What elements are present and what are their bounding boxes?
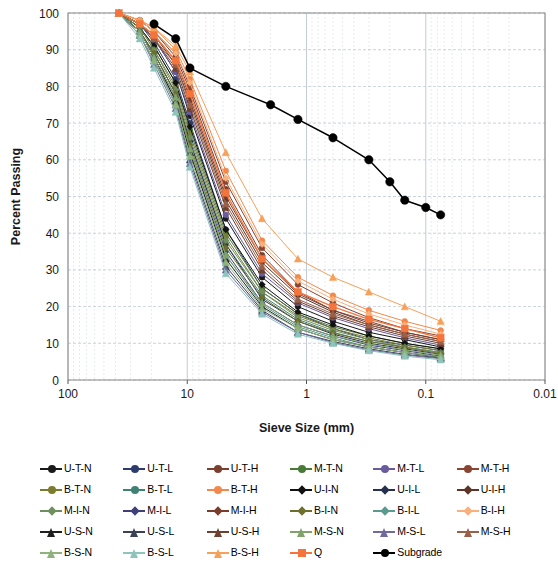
legend-item-u-t-l[interactable]: U-T-L xyxy=(123,463,206,475)
legend-item-u-i-l[interactable]: U-I-L xyxy=(373,484,456,496)
legend-label: B-T-H xyxy=(231,484,258,495)
x-tick-labels: 1001010.10.01 xyxy=(58,380,557,401)
legend-item-m-i-l[interactable]: M-I-L xyxy=(123,505,206,517)
legend-label: M-S-H xyxy=(481,526,511,537)
svg-text:20: 20 xyxy=(46,300,60,314)
legend-label: B-S-H xyxy=(231,547,259,558)
legend-label: U-S-N xyxy=(64,526,93,537)
legend-item-m-s-h[interactable]: M-S-H xyxy=(457,526,540,538)
y-tick-labels: 0102030405060708090100 xyxy=(39,7,59,388)
legend-label: B-S-N xyxy=(64,547,92,558)
legend-item-u-t-h[interactable]: U-T-H xyxy=(207,463,290,475)
legend-marker-icon xyxy=(457,463,479,475)
legend-marker-icon xyxy=(123,505,145,517)
legend-label: U-T-L xyxy=(147,463,173,474)
legend-label: M-S-N xyxy=(314,526,344,537)
legend-item-u-t-n[interactable]: U-T-N xyxy=(40,463,123,475)
legend-item-b-t-l[interactable]: B-T-L xyxy=(123,484,206,496)
legend-grid: U-T-NU-T-LU-T-HM-T-NM-T-LM-T-HB-T-NB-T-L… xyxy=(40,458,540,563)
svg-text:70: 70 xyxy=(46,117,60,131)
legend-marker-icon xyxy=(207,484,229,496)
legend-marker-icon xyxy=(457,484,479,496)
legend-label: U-I-N xyxy=(314,484,339,495)
legend-label: M-S-L xyxy=(397,526,425,537)
legend-item-b-t-h[interactable]: B-T-H xyxy=(207,484,290,496)
legend-item-b-s-n[interactable]: B-S-N xyxy=(40,547,123,559)
legend-item-m-s-l[interactable]: M-S-L xyxy=(373,526,456,538)
y-axis-title: Percent Passing xyxy=(9,148,23,245)
legend-label: U-S-H xyxy=(231,526,260,537)
legend-item-b-s-l[interactable]: B-S-L xyxy=(123,547,206,559)
legend-label: Q xyxy=(314,547,322,558)
legend-label: U-T-H xyxy=(231,463,259,474)
legend-item-u-s-l[interactable]: U-S-L xyxy=(123,526,206,538)
legend-item-u-i-h[interactable]: U-I-H xyxy=(457,484,540,496)
legend-label: B-I-N xyxy=(314,505,338,516)
legend-marker-icon xyxy=(290,505,312,517)
chart-page: 1001010.10.010102030405060708090100Sieve… xyxy=(0,0,558,571)
legend-label: M-I-L xyxy=(147,505,171,516)
legend-marker-icon xyxy=(123,463,145,475)
legend-marker-icon xyxy=(40,484,62,496)
legend-label: B-S-L xyxy=(147,547,173,558)
legend-item-m-i-h[interactable]: M-I-H xyxy=(207,505,290,517)
svg-text:10: 10 xyxy=(181,387,195,401)
legend-item-subgrade[interactable]: Subgrade xyxy=(373,547,456,559)
legend-item-b-i-h[interactable]: B-I-H xyxy=(457,505,540,517)
legend-item-u-s-n[interactable]: U-S-N xyxy=(40,526,123,538)
legend-item-b-i-l[interactable]: B-I-L xyxy=(373,505,456,517)
legend-label: B-I-H xyxy=(481,505,505,516)
legend-marker-icon xyxy=(373,505,395,517)
legend-label: B-T-L xyxy=(147,484,172,495)
legend-marker-icon xyxy=(290,526,312,538)
grain-size-distribution-chart: 1001010.10.010102030405060708090100Sieve… xyxy=(0,0,558,445)
legend-marker-icon xyxy=(123,547,145,559)
legend-marker-icon xyxy=(290,547,312,559)
legend-item-u-s-h[interactable]: U-S-H xyxy=(207,526,290,538)
svg-text:90: 90 xyxy=(46,43,60,57)
svg-text:80: 80 xyxy=(46,80,60,94)
legend-label: M-I-H xyxy=(231,505,257,516)
legend-marker-icon xyxy=(290,463,312,475)
svg-text:100: 100 xyxy=(39,7,59,21)
legend-item-u-i-n[interactable]: U-I-N xyxy=(290,484,373,496)
legend-marker-icon xyxy=(373,547,395,559)
x-axis-title: Sieve Size (mm) xyxy=(259,421,354,435)
legend-label: B-T-N xyxy=(64,484,91,495)
legend-label: M-T-L xyxy=(397,463,424,474)
legend-item-b-i-n[interactable]: B-I-N xyxy=(290,505,373,517)
legend-label: Subgrade xyxy=(397,547,442,558)
legend-marker-icon xyxy=(207,547,229,559)
legend-label: B-I-L xyxy=(397,505,419,516)
legend-marker-icon xyxy=(373,484,395,496)
svg-text:0.1: 0.1 xyxy=(417,387,434,401)
svg-text:60: 60 xyxy=(46,153,60,167)
legend-label: U-S-L xyxy=(147,526,174,537)
legend-label: U-T-N xyxy=(64,463,92,474)
legend-label: U-I-H xyxy=(481,484,506,495)
legend-item-q[interactable]: Q xyxy=(290,547,373,559)
chart-legend: U-T-NU-T-LU-T-HM-T-NM-T-LM-T-HB-T-NB-T-L… xyxy=(40,458,540,566)
legend-label: U-I-L xyxy=(397,484,420,495)
legend-item-m-t-h[interactable]: M-T-H xyxy=(457,463,540,475)
svg-text:1: 1 xyxy=(303,387,310,401)
legend-marker-icon xyxy=(207,463,229,475)
legend-marker-icon xyxy=(207,505,229,517)
legend-marker-icon xyxy=(207,526,229,538)
legend-marker-icon xyxy=(40,526,62,538)
legend-marker-icon xyxy=(40,505,62,517)
legend-label: M-I-N xyxy=(64,505,90,516)
legend-item-b-s-h[interactable]: B-S-H xyxy=(207,547,290,559)
legend-item-m-t-l[interactable]: M-T-L xyxy=(373,463,456,475)
legend-item-m-i-n[interactable]: M-I-N xyxy=(40,505,123,517)
legend-label: M-T-H xyxy=(481,463,510,474)
legend-marker-icon xyxy=(40,547,62,559)
legend-marker-icon xyxy=(123,484,145,496)
legend-item-m-t-n[interactable]: M-T-N xyxy=(290,463,373,475)
legend-item-m-s-n[interactable]: M-S-N xyxy=(290,526,373,538)
legend-item-b-t-n[interactable]: B-T-N xyxy=(40,484,123,496)
legend-marker-icon xyxy=(373,463,395,475)
legend-marker-icon xyxy=(373,526,395,538)
svg-text:0: 0 xyxy=(52,374,59,388)
svg-text:50: 50 xyxy=(46,190,60,204)
